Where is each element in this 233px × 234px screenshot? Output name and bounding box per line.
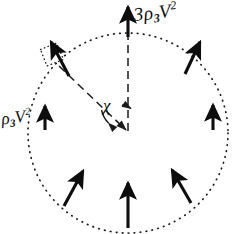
vector-upper-right <box>185 42 200 74</box>
vector-lower-left <box>64 171 83 206</box>
vector-field-diagram <box>0 0 233 234</box>
label-angle-chi: χ <box>103 97 110 114</box>
chi-arc-right <box>122 105 131 109</box>
label-top-exponent: 2 <box>169 0 177 12</box>
figure-container: 3ρ3V2 ρ3V2 χ <box>0 0 233 234</box>
label-left-vector: ρ3V2 <box>0 106 32 129</box>
vector-upper-left <box>51 42 69 76</box>
label-left-exponent: 2 <box>24 105 31 117</box>
vector-lower-right <box>172 170 191 203</box>
